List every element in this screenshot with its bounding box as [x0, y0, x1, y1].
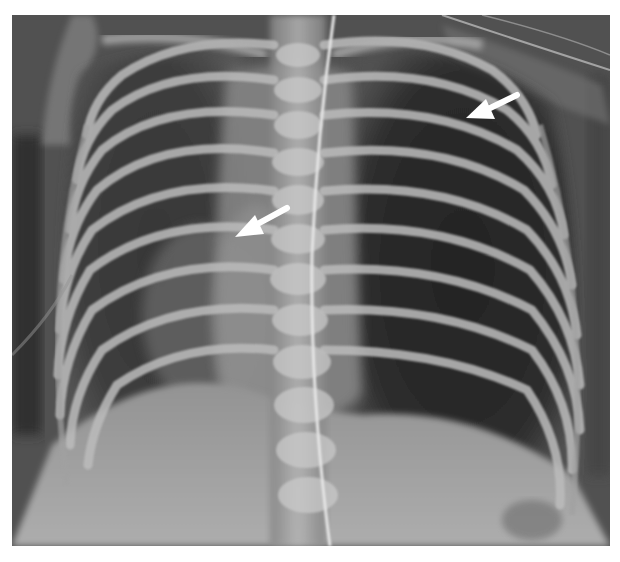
radiograph-svg [12, 15, 610, 546]
xray-image [12, 15, 610, 546]
